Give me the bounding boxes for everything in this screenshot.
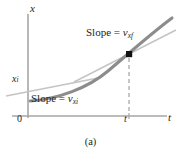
position-time-graph-figure: x t xi t 0 Slope = vxf Slope = vxi (a) — [0, 0, 181, 155]
point-marker — [126, 51, 132, 57]
slope-final-text: Slope = — [86, 26, 123, 38]
figure-caption: (a) — [0, 136, 181, 147]
x-axis-tick-label: t — [124, 114, 127, 124]
slope-initial-text: Slope = — [31, 92, 68, 104]
slope-initial-subscript: xi — [73, 97, 78, 106]
y-axis-label: x — [30, 3, 35, 14]
origin-label: 0 — [17, 114, 22, 124]
slope-initial-annotation: Slope = vxi — [31, 93, 78, 105]
y-axis-tick-label: xi — [12, 74, 19, 84]
y-tick-subscript: i — [16, 75, 18, 84]
x-axis-label: t — [168, 112, 171, 123]
slope-final-subscript: xf — [128, 31, 133, 40]
graph-canvas — [0, 0, 181, 155]
slope-final-annotation: Slope = vxf — [86, 27, 133, 39]
